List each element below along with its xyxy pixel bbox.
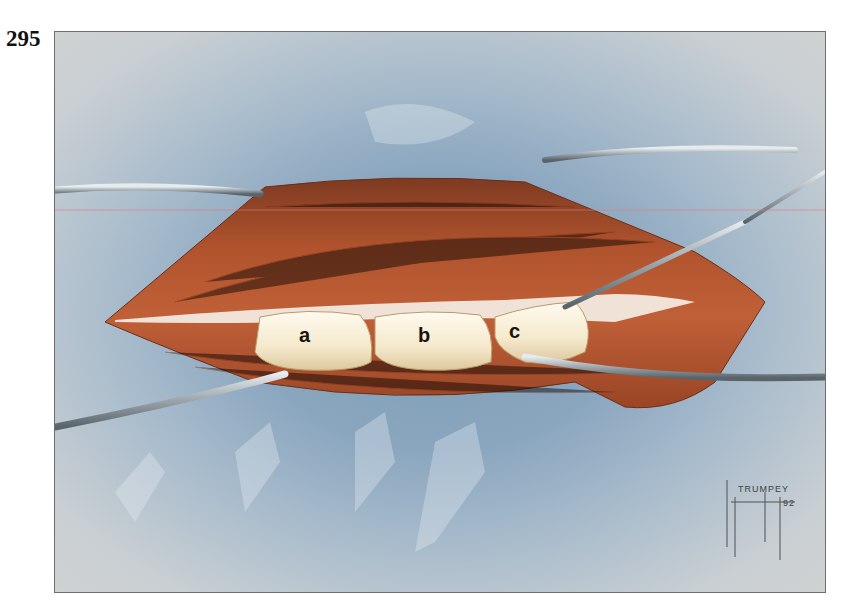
figure-number: 295 — [6, 26, 41, 52]
surgical-illustration — [55, 32, 825, 592]
bone-a — [255, 311, 372, 370]
label-c: c — [509, 320, 520, 343]
signature-year: 92 — [783, 498, 795, 508]
illustration-frame: a b c TRUMPEY 92 — [54, 31, 826, 593]
label-a: a — [299, 324, 310, 347]
signature-name: TRUMPEY — [738, 484, 789, 494]
label-b: b — [418, 324, 430, 347]
bone-b — [375, 312, 492, 370]
